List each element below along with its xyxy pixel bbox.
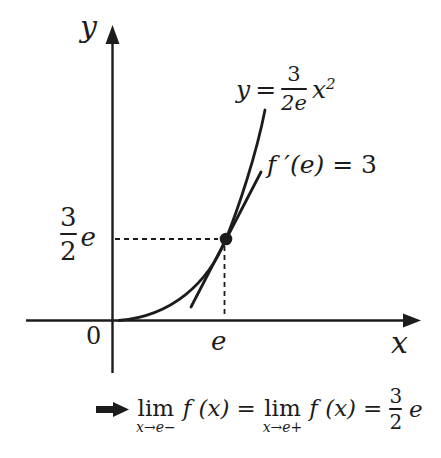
conclusion-formula: lim x→e− f (x) = lim x→e+ f (x) = 3 2 e <box>96 397 423 434</box>
y-tick-fraction: 3 2 <box>60 204 77 264</box>
y-tick-suffix-e: e <box>81 224 96 250</box>
tangent-label-func: f ′(e) <box>267 150 324 179</box>
left-limit-expression: f (x) <box>183 397 230 419</box>
right-limit-expression: f (x) <box>309 397 356 419</box>
y-tick-denominator: 2 <box>60 238 77 264</box>
curve-eq-exponent: 2 <box>326 74 336 92</box>
curve-eq-numerator: 3 <box>287 64 300 85</box>
result-denominator: 2 <box>389 412 402 432</box>
origin-label: 0 <box>86 324 101 348</box>
left-limit: lim x→e− <box>136 397 176 434</box>
fraction-bar <box>60 233 77 235</box>
curve-equation-label: y = 3 2e x2 <box>236 64 336 114</box>
result-fraction: 3 2 <box>389 386 402 432</box>
curve-eq-lhs: y <box>236 77 250 102</box>
limit-subscript: x→e− <box>136 421 176 434</box>
equals-sign: = <box>236 397 255 419</box>
curve-eq-equals: = <box>255 77 276 102</box>
y-tick-numerator: 3 <box>60 204 77 230</box>
tangency-point-dot <box>220 233 233 246</box>
curve-eq-denominator: 2e <box>281 93 307 114</box>
limit-operator: lim <box>138 397 175 419</box>
right-limit: lim x→e+ <box>263 397 303 434</box>
math-figure: y x 0 e 3 2 e y = 3 2e x2 f ′(e) = 3 lim… <box>0 0 441 458</box>
implies-arrow-icon <box>96 402 129 417</box>
curve-eq-base: x2 <box>312 77 336 102</box>
parabola-curve <box>119 110 265 321</box>
tangent-label-eq: = 3 <box>324 150 377 179</box>
y-axis-label: y <box>80 12 97 42</box>
curve-eq-fraction: 3 2e <box>281 64 307 114</box>
result-numerator: 3 <box>389 386 402 406</box>
equals-sign: = <box>363 397 382 419</box>
fraction-bar <box>281 88 307 90</box>
result-suffix-e: e <box>409 398 423 420</box>
x-axis-label: x <box>391 328 408 358</box>
limit-operator: lim <box>264 397 301 419</box>
x-tick-label-e: e <box>211 328 226 354</box>
y-tick-label: 3 2 e <box>60 204 96 264</box>
tangent-slope-label: f ′(e) = 3 <box>267 152 377 177</box>
y-axis-arrowhead-icon <box>106 25 120 44</box>
limit-subscript: x→e+ <box>263 421 303 434</box>
